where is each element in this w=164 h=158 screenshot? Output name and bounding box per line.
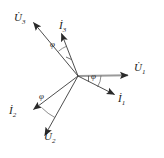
angle-arc-phi-2 (42, 108, 55, 117)
phasor-line-u1 (78, 75, 128, 76)
phasor-line-i1 (78, 76, 115, 95)
angle-arc-phi-3 (59, 46, 68, 51)
phasor-label-u1-text: U̇ (134, 61, 142, 73)
phasor-label-i3: İ3 (59, 20, 66, 34)
phasor-label-i1: İ1 (118, 93, 125, 107)
angle-arc-phi-1 (98, 76, 102, 87)
phasor-label-i2-sub: 2 (13, 111, 17, 119)
phasor-label-i2: İ2 (9, 105, 16, 119)
phasor-label-i1-sub: 1 (122, 99, 126, 107)
phasor-label-u3-text: U̇ (14, 11, 22, 23)
phasor-diagram-figure: U̇1 U̇2 U̇3 İ1 İ2 İ3 φ φ φ (0, 0, 164, 158)
phasor-label-u3-sub: 3 (22, 18, 26, 26)
angle-label-phi-3: φ (50, 40, 55, 49)
phasor-label-u2: U̇2 (44, 131, 55, 145)
phasor-label-u2-text: U̇ (44, 130, 52, 142)
angle-label-phi-2: φ (39, 92, 44, 101)
phasor-label-u2-sub: 2 (52, 137, 56, 145)
phasor-line-u2 (45, 76, 78, 136)
phasor-line-u3 (34, 23, 79, 77)
phasor-label-i3-sub: 3 (63, 26, 67, 34)
phasor-label-u1: U̇1 (134, 62, 145, 76)
angle-arcs (42, 46, 101, 118)
phasor-label-u3: U̇3 (14, 12, 25, 26)
phasor-label-u1-sub: 1 (142, 68, 146, 76)
voltage-phasors (34, 23, 129, 136)
phasor-line-i3 (62, 34, 79, 77)
angle-label-phi-1: φ (91, 72, 96, 81)
